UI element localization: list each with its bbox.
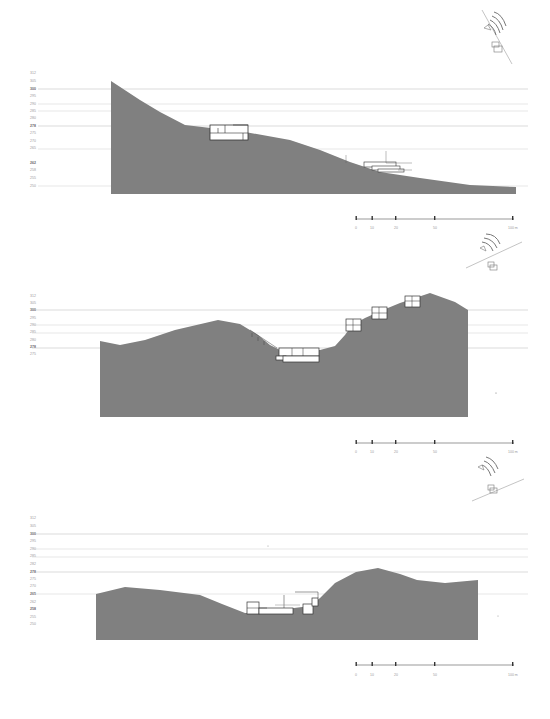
scale-bar (352, 660, 518, 668)
section-3-drawing (0, 0, 550, 719)
scale-tick-label: 10 (370, 673, 374, 677)
scale-tick-label: 50 (433, 673, 437, 677)
drawing-sheet: 312 305 300 295 290 285 280 278 275 270 … (0, 0, 550, 719)
scale-tick-label: 0 (355, 673, 357, 677)
scale-tick-label: 100 m (508, 673, 518, 677)
section-3: 312 305 300 295 290 285 282 278 275 270 … (0, 0, 550, 719)
scale-tick-label: 20 (394, 673, 398, 677)
